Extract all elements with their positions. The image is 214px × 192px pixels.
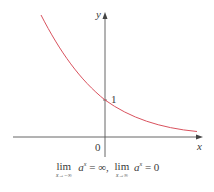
- x-axis-label: x: [197, 141, 202, 152]
- limits-caption: lim x→−∞ ax = ∞, lim x→∞ ax = 0: [56, 161, 159, 179]
- limit-neg-inf: lim x→−∞: [56, 161, 72, 179]
- lim-subscript: x→−∞: [56, 173, 72, 179]
- origin-label: 0: [95, 142, 101, 153]
- exponential-curve: [41, 15, 197, 132]
- lim-subscript: x→∞: [115, 173, 130, 179]
- limit-value-zero: = 0: [142, 161, 159, 173]
- lim-word: lim: [56, 160, 71, 172]
- x-axis-arrow-icon: [196, 135, 203, 140]
- limit-pos-inf: lim x→∞: [115, 161, 130, 179]
- limit-value-infinity: = ∞,: [87, 161, 109, 173]
- y-axis-arrow-icon: [103, 12, 108, 19]
- y-intercept-label: 1: [111, 94, 117, 105]
- y-axis-label: y: [96, 9, 101, 20]
- lim-word: lim: [115, 160, 130, 172]
